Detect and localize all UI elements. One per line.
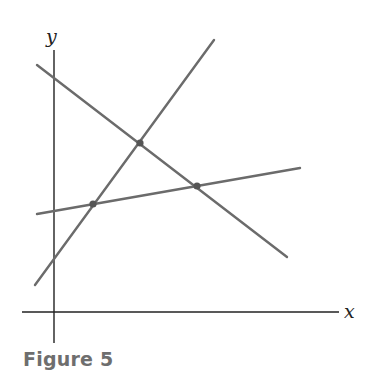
intersection-top	[136, 139, 143, 146]
lines	[35, 40, 300, 285]
intersection-left	[89, 200, 96, 207]
figure-diagram: x y	[0, 0, 372, 375]
intersection-points	[89, 139, 200, 207]
figure-caption: Figure 5	[23, 348, 113, 370]
shallow-ascending-line	[37, 168, 300, 214]
x-axis-label: x	[344, 300, 355, 322]
intersection-right	[193, 182, 200, 189]
descending-line	[37, 65, 287, 257]
y-axis-label: y	[45, 25, 57, 47]
axes	[22, 50, 339, 343]
steep-ascending-line	[35, 40, 214, 285]
